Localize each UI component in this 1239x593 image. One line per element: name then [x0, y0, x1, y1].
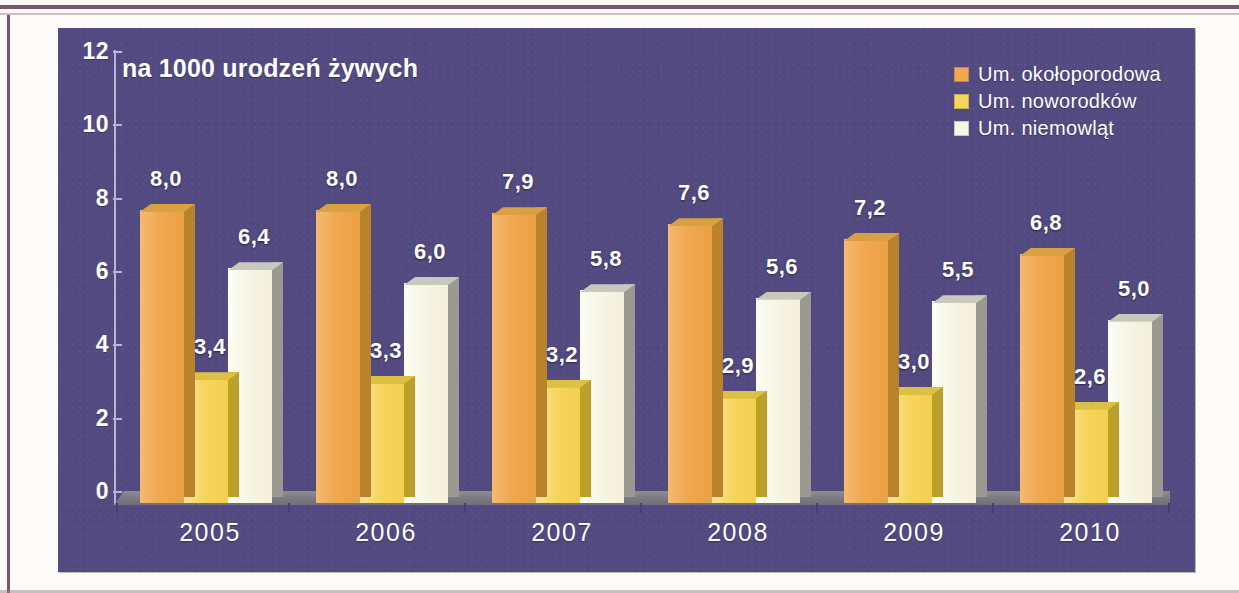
y-axis-tick	[113, 124, 122, 126]
bar-value-label: 8,0	[150, 166, 182, 192]
bar-side-3d	[932, 387, 943, 497]
y-axis-tick-label: 2	[69, 405, 109, 432]
bar-value-label: 5,6	[766, 254, 798, 280]
bar-value-label: 6,8	[1030, 210, 1062, 236]
page-rule-top-thin	[0, 13, 1239, 15]
x-axis-label-2006: 2006	[355, 518, 417, 547]
bar-side-3d	[1108, 402, 1119, 497]
x-axis-label-2007: 2007	[531, 518, 593, 547]
y-axis-tick	[113, 344, 122, 346]
bar-value-label: 8,0	[326, 166, 358, 192]
y-axis-tick-label: 6	[69, 258, 109, 285]
bar-side-3d	[624, 284, 635, 497]
x-axis-tick	[288, 503, 290, 513]
x-axis-label-2009: 2009	[883, 518, 945, 547]
x-axis-label-2010: 2010	[1059, 518, 1121, 547]
bar-side-3d	[272, 262, 283, 497]
page-rule-left	[7, 15, 10, 593]
y-axis-tick	[113, 418, 122, 420]
bar-value-label: 5,5	[942, 257, 974, 283]
y-axis-tick-label: 12	[69, 38, 109, 65]
bar	[844, 239, 888, 503]
bar-face	[140, 210, 184, 503]
bar-face	[668, 224, 712, 503]
x-axis-tick	[816, 503, 818, 513]
x-axis-label-2005: 2005	[179, 518, 241, 547]
bar-side-3d	[580, 380, 591, 497]
chart-panel: na 1000 urodzeń żywych Um. okołoporodowa…	[58, 28, 1195, 572]
bar-side-3d	[404, 376, 415, 497]
y-axis-tick	[113, 51, 122, 53]
bar-side-3d	[756, 391, 767, 497]
bar-side-3d	[800, 292, 811, 497]
bar-side-3d	[1152, 314, 1163, 497]
bar	[1020, 254, 1064, 503]
x-axis-tick	[1168, 503, 1170, 513]
x-axis-label-2008: 2008	[707, 518, 769, 547]
bar-value-label: 3,3	[370, 338, 402, 364]
bar-face	[844, 239, 888, 503]
page-rule-top	[0, 5, 1239, 9]
plot-area: 024681012 8,03,46,48,03,36,07,93,25,87,6…	[114, 50, 1170, 515]
x-axis-tick	[640, 503, 642, 513]
bar-value-label: 7,9	[502, 169, 534, 195]
bar	[140, 210, 184, 503]
bar	[316, 210, 360, 503]
bar-value-label: 6,4	[238, 224, 270, 250]
page-background: na 1000 urodzeń żywych Um. okołoporodowa…	[0, 0, 1239, 593]
bar-value-label: 7,2	[854, 195, 886, 221]
bar-value-label: 3,2	[546, 342, 578, 368]
bar-side-3d	[976, 295, 987, 497]
bar-value-label: 7,6	[678, 180, 710, 206]
bar-face	[1020, 254, 1064, 503]
bar-value-label: 3,0	[898, 349, 930, 375]
x-axis-tick-origin	[116, 503, 118, 513]
bar-face	[316, 210, 360, 503]
y-axis-tick-label: 10	[69, 111, 109, 138]
bar-value-label: 2,6	[1074, 364, 1106, 390]
bar-value-label: 3,4	[194, 334, 226, 360]
y-axis-tick	[113, 198, 122, 200]
bar	[492, 213, 536, 503]
bar-side-3d	[228, 372, 239, 497]
bar-value-label: 2,9	[722, 353, 754, 379]
bar-face	[492, 213, 536, 503]
x-axis-tick	[992, 503, 994, 513]
y-axis-tick-label: 4	[69, 331, 109, 358]
bar-value-label: 5,8	[590, 246, 622, 272]
y-axis-line	[114, 50, 116, 503]
bar	[668, 224, 712, 503]
bar-side-3d	[448, 277, 459, 497]
y-axis-tick-label: 8	[69, 185, 109, 212]
y-axis-tick	[113, 491, 122, 493]
x-axis-tick	[464, 503, 466, 513]
y-axis-tick	[113, 271, 122, 273]
y-axis-tick-label: 0	[69, 478, 109, 505]
bar-value-label: 5,0	[1118, 276, 1150, 302]
bar-value-label: 6,0	[414, 239, 446, 265]
